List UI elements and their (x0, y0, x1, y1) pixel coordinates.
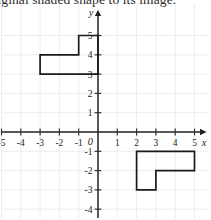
x-tick-label: -4 (17, 138, 25, 148)
x-tick-label: -3 (36, 138, 44, 148)
axes-group (2, 10, 207, 218)
y-tick-label: -2 (85, 166, 93, 176)
coordinate-plot: -5-4-3-2-11234554321-1-2-3-40 xy (0, 0, 211, 220)
x-tick-label: -1 (75, 138, 83, 148)
x-axis-arrow-icon (200, 129, 207, 135)
axis-labels-group: xy (88, 7, 207, 148)
x-tick-label: 1 (115, 138, 120, 148)
gridlines-group (1, 4, 209, 219)
x-tick-label: 5 (192, 138, 197, 148)
x-tick-label: 4 (173, 138, 178, 148)
y-tick-label: -4 (85, 205, 93, 215)
y-tick-label: 2 (88, 89, 93, 99)
y-axis-label: y (88, 7, 94, 18)
y-tick-label: -3 (85, 185, 93, 195)
y-tick-label: 4 (88, 50, 93, 60)
coordinate-plane-figure: original shaded shape to its image. -5-4… (0, 0, 211, 220)
y-axis-arrow-icon (95, 10, 101, 16)
x-tick-label: 3 (154, 138, 159, 148)
origin-label: 0 (88, 136, 94, 147)
plot-svg: -5-4-3-2-11234554321-1-2-3-40 xy (0, 0, 211, 220)
x-tick-label: 2 (134, 138, 139, 148)
x-tick-label: -2 (55, 138, 63, 148)
y-tick-label: -1 (85, 147, 93, 157)
y-tick-label: 1 (88, 108, 93, 118)
x-axis-label: x (201, 137, 207, 148)
x-tick-label: -5 (0, 138, 6, 148)
